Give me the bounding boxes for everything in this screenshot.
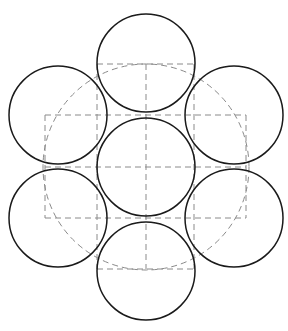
dashed-construction-lines [43, 64, 249, 270]
diagram-canvas [0, 0, 288, 331]
circle-packing-diagram [0, 0, 288, 331]
